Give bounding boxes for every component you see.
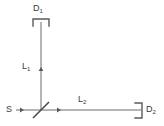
interferometer-figure: S D1 D2 L1 L2 <box>0 0 164 126</box>
label-arm-1: L1 <box>22 62 30 71</box>
label-detector-1-subscript: 1 <box>40 8 43 14</box>
label-detector-2: D2 <box>146 105 156 114</box>
label-source: S <box>6 105 12 114</box>
label-detector-2-text: D <box>146 104 153 114</box>
label-detector-2-subscript: 2 <box>153 109 156 115</box>
label-arm-2-subscript: 2 <box>83 99 86 105</box>
label-detector-1: D1 <box>33 4 43 13</box>
label-source-text: S <box>6 104 12 114</box>
label-arm-2: L2 <box>78 95 86 104</box>
arrowhead-source-beam-icon <box>20 108 24 113</box>
arrowhead-vertical-arm-icon <box>39 67 44 71</box>
arrowhead-horizontal-arm-icon <box>57 108 61 113</box>
label-detector-1-text: D <box>33 3 40 13</box>
label-arm-1-subscript: 1 <box>27 66 30 72</box>
